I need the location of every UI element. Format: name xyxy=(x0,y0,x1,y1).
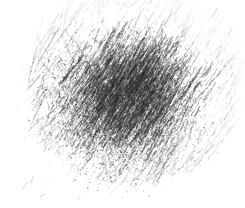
artboard: Pencil Scribble Patch Dense hand-drawn d… xyxy=(0,0,245,208)
pencil-scribble-drawing xyxy=(0,0,245,208)
